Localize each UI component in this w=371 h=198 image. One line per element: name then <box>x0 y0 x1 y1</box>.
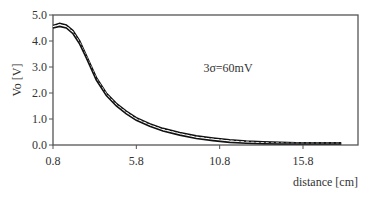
line-chart: 0.01.02.03.04.05.0 0.85.810.815.8 3σ=60m… <box>0 0 371 198</box>
x-axis-ticks: 0.85.810.815.8 <box>46 145 314 168</box>
y-tick-label: 1.0 <box>32 112 47 126</box>
y-axis-ticks: 0.01.02.03.04.05.0 <box>32 8 53 152</box>
y-tick-label: 0.0 <box>32 138 47 152</box>
x-tick-label: 5.8 <box>129 154 144 168</box>
x-tick-label: 10.8 <box>209 154 230 168</box>
y-tick-label: 2.0 <box>32 86 47 100</box>
y-axis-title: Vo [V] <box>10 64 24 97</box>
x-axis-title: distance [cm] <box>293 175 358 189</box>
x-tick-label: 0.8 <box>46 154 61 168</box>
y-tick-label: 4.0 <box>32 34 47 48</box>
x-tick-label: 15.8 <box>293 154 314 168</box>
sigma-annotation: 3σ=60mV <box>203 61 253 75</box>
y-tick-label: 5.0 <box>32 8 47 22</box>
y-tick-label: 3.0 <box>32 60 47 74</box>
